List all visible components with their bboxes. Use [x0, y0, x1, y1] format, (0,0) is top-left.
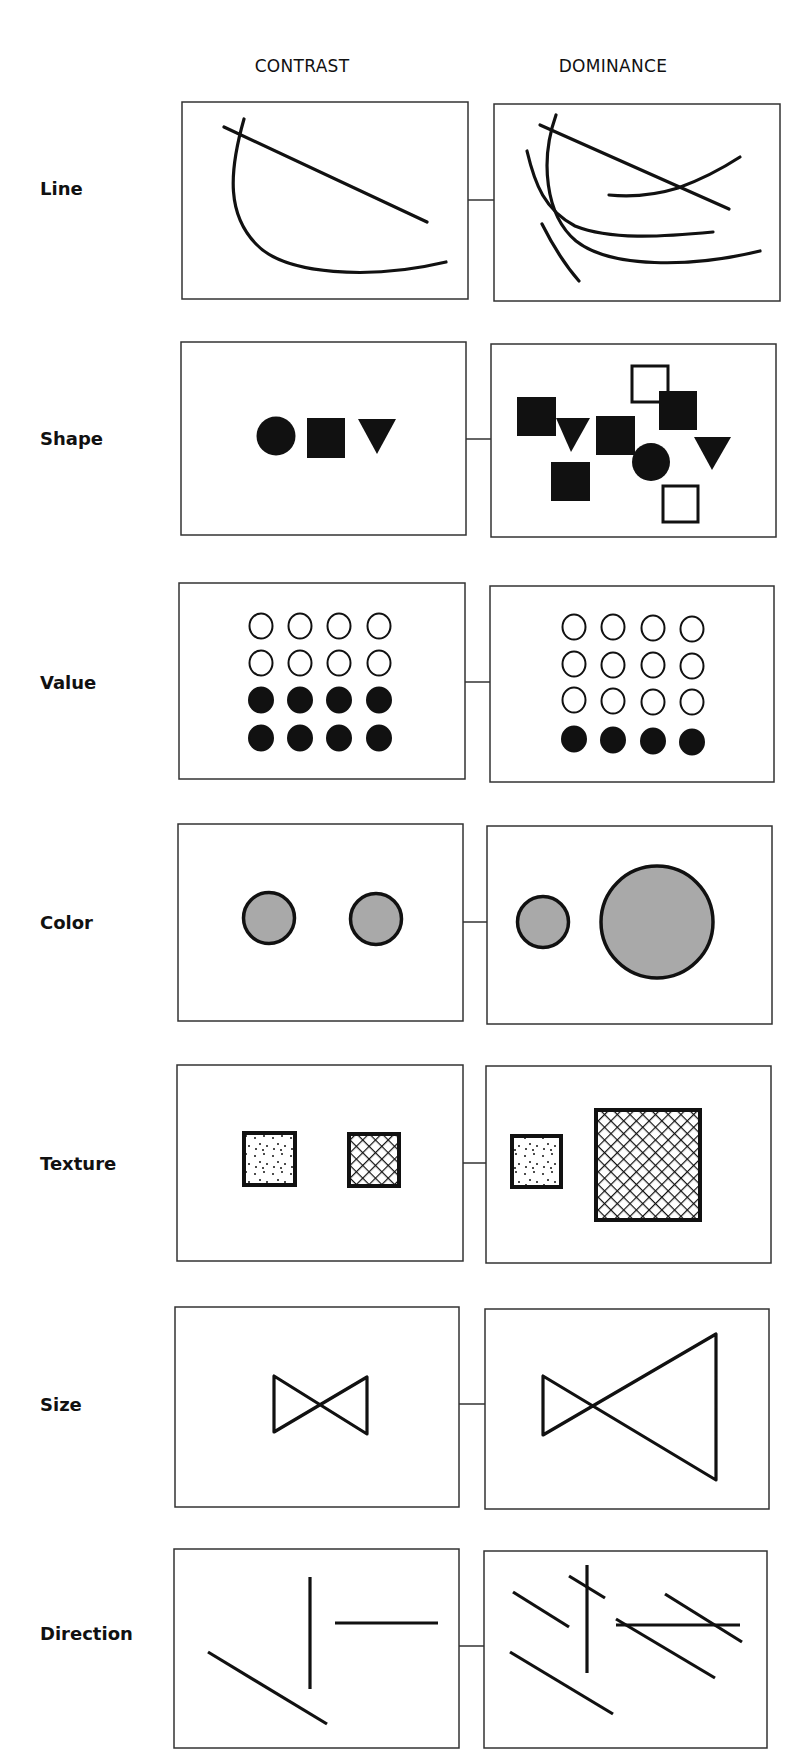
row-line-frames [182, 102, 780, 301]
texture-contrast-figure [244, 1133, 399, 1186]
shape-dominance-figure [517, 366, 731, 522]
color-dominance-figure [518, 866, 714, 978]
direction-contrast-figure [208, 1577, 438, 1724]
crosshatch-square [349, 1134, 399, 1186]
circle-shape [257, 417, 296, 456]
row-size-frames [175, 1307, 769, 1509]
diagram-canvas [0, 0, 797, 1763]
value-contrast-figure [249, 614, 391, 751]
texture-dominance-figure [512, 1110, 700, 1220]
value-dominance-figure [562, 615, 704, 755]
line-contrast-figure [224, 119, 446, 272]
square-shape [307, 418, 345, 458]
size-dominance-figure [543, 1334, 716, 1480]
row-direction-frames [174, 1549, 767, 1748]
color-contrast-figure [244, 893, 402, 945]
stipple-square [244, 1133, 295, 1185]
triangle-shape [358, 419, 396, 454]
size-contrast-figure [274, 1376, 367, 1434]
line-dominance-figure [527, 115, 760, 281]
shape-contrast-figure [257, 417, 397, 459]
direction-dominance-figure [510, 1565, 742, 1714]
